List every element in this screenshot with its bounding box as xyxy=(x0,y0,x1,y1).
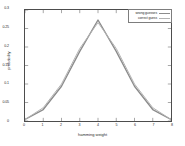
x-tick-label: 7 xyxy=(149,124,159,128)
x-tick-label: 8 xyxy=(167,124,177,128)
y-tick-label: 0.3 xyxy=(4,7,9,11)
x-tick-label: 0 xyxy=(19,124,29,128)
chart-canvas xyxy=(25,10,171,121)
legend-swatch-correct-guess xyxy=(159,18,170,19)
x-axis-label: hamming weight xyxy=(0,132,185,137)
x-ticks-bottom xyxy=(25,118,171,121)
legend-label: wrong guesses xyxy=(135,12,157,15)
y-tick-label: 0 xyxy=(7,120,9,124)
x-tick-label: 1 xyxy=(38,124,48,128)
x-tick-label: 3 xyxy=(75,124,85,128)
y-tick-label: 0.25 xyxy=(2,26,9,30)
x-tick-label: 5 xyxy=(112,124,122,128)
y-ticks-right xyxy=(168,10,171,121)
x-tick-label: 4 xyxy=(93,124,103,128)
y-ticks-left xyxy=(25,10,28,121)
legend: wrong guesses correct guess xyxy=(128,9,172,23)
x-tick-label: 2 xyxy=(56,124,66,128)
plot-area xyxy=(24,9,172,122)
y-tick-label: 0.05 xyxy=(2,101,9,105)
legend-label: correct guess xyxy=(138,17,157,20)
legend-item: correct guess xyxy=(130,16,170,21)
x-tick-label: 6 xyxy=(130,124,140,128)
y-axis-label: probability xyxy=(6,36,11,86)
figure: 00.050.10.150.20.250.3 012345678 hamming… xyxy=(0,0,185,146)
series-line xyxy=(25,20,171,120)
legend-swatch-wrong-guesses xyxy=(159,13,170,14)
series-group xyxy=(25,20,171,120)
